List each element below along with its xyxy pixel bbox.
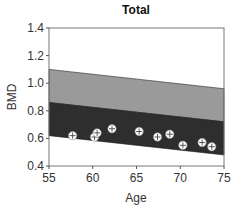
chart-title: Total xyxy=(122,3,150,17)
data-point-marker xyxy=(166,130,174,138)
x-tick-label: 55 xyxy=(42,171,56,185)
y-axis-label: BMD xyxy=(5,83,19,110)
data-point-marker xyxy=(108,125,116,133)
y-tick-label: 0.6 xyxy=(27,131,44,145)
y-tick-label: 1.4 xyxy=(27,21,44,35)
x-tick-label: 70 xyxy=(174,171,188,185)
y-axis-ticks: 0.40.60.81.01.21.4 xyxy=(27,21,49,173)
x-axis-ticks: 5560657075 xyxy=(42,166,231,185)
bmd-chart: Total 0.40.60.81.01.21.4 5560657075 Age … xyxy=(0,0,238,210)
x-tick-label: 60 xyxy=(86,171,100,185)
x-tick-label: 75 xyxy=(217,171,231,185)
y-tick-label: 1.0 xyxy=(27,76,44,90)
x-tick-label: 65 xyxy=(130,171,144,185)
data-point-marker xyxy=(179,141,187,149)
x-axis-label: Age xyxy=(125,191,147,205)
data-point-marker xyxy=(208,142,216,150)
data-point-marker xyxy=(198,138,206,146)
y-tick-label: 0.8 xyxy=(27,104,44,118)
data-point-marker xyxy=(153,133,161,141)
data-point-marker xyxy=(93,129,101,137)
data-point-marker xyxy=(68,131,76,139)
y-tick-label: 1.2 xyxy=(27,49,44,63)
data-point-marker xyxy=(135,127,143,135)
